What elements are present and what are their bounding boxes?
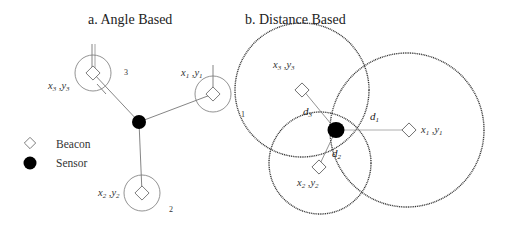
beacon-2-coords: x2 ,y2 bbox=[97, 187, 120, 200]
beacon-3-coords: x3 ,y3 bbox=[272, 59, 295, 72]
panel-distance-based: b. Distance Based x3 ,y3 x1 ,y1 x2 ,y2 d… bbox=[235, 12, 484, 214]
legend-beacon-label: Beacon bbox=[56, 138, 91, 150]
bearing-line-2 bbox=[139, 122, 142, 193]
legend-sensor-label: Sensor bbox=[56, 157, 87, 169]
beacon-3-coords: x3 ,y3 bbox=[47, 80, 70, 93]
beacon-1-number: 1 bbox=[241, 110, 245, 119]
beacon-2-angle: x2 ,y2 2 bbox=[97, 175, 173, 214]
panel-angle-based: a. Angle Based x3 ,y3 3 x1 ,y1 1 x2 ,y bbox=[24, 12, 246, 214]
distance-label-2: d2 bbox=[332, 147, 342, 161]
sensor-icon bbox=[328, 122, 345, 138]
distance-label-1: d1 bbox=[370, 110, 379, 124]
distance-label-3: d3 bbox=[303, 105, 313, 119]
beacon-1-coords: x1 ,y1 bbox=[180, 67, 203, 80]
sensor-icon bbox=[132, 115, 146, 129]
beacon-2-number: 2 bbox=[169, 205, 173, 214]
beacon-2-coords: x2 ,y2 bbox=[296, 177, 319, 190]
beacon-1-diamond-icon bbox=[402, 123, 416, 137]
panel-b-title: b. Distance Based bbox=[245, 12, 346, 27]
beacon-3-number: 3 bbox=[124, 68, 128, 77]
beacon-diamond-icon bbox=[24, 137, 35, 148]
beacon-diamond-icon bbox=[135, 186, 149, 200]
panel-a-title: a. Angle Based bbox=[88, 12, 172, 27]
legend: Beacon Sensor bbox=[24, 137, 91, 169]
beacon-diamond-icon bbox=[206, 87, 220, 101]
bearing-line-3 bbox=[93, 73, 139, 122]
beacon-1-coords: x1 ,y1 bbox=[420, 124, 443, 137]
sensor-dot-icon bbox=[24, 157, 37, 170]
diagram-canvas: a. Angle Based x3 ,y3 3 x1 ,y1 1 x2 ,y bbox=[0, 0, 505, 231]
beacon-3-angle: x3 ,y3 3 bbox=[47, 55, 128, 93]
beacon-2-diamond-icon bbox=[312, 160, 326, 174]
